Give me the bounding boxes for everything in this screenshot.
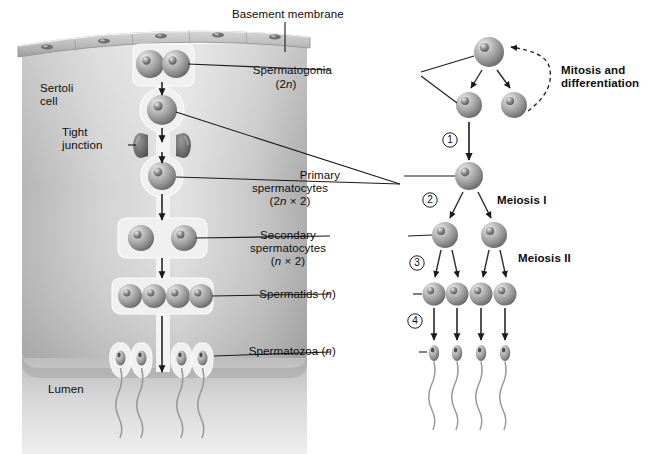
ploidy-suffix: ) (332, 288, 336, 300)
leader-spermatogonia-daughter (421, 76, 457, 103)
stage-label-secondary-spermatocytes-line1: Secondary (236, 229, 340, 242)
cell-spermatid-2 (446, 283, 469, 306)
step-number-1: 1 (443, 134, 457, 147)
cell-spermatogonium-daughter-right (501, 92, 527, 118)
step-number-2: 2 (423, 194, 437, 207)
lineage-spermatozoa (429, 345, 510, 430)
stage-label-spermatids: Spermatids (n) (236, 288, 336, 301)
stage-label-spermatids-text: Spermatids ( (259, 288, 325, 300)
stage-label-secondary-spermatocytes-line2: spermatocytes (236, 242, 340, 255)
sertoli-cell-label-line2: cell (40, 95, 58, 108)
step-4-arrows (434, 308, 505, 340)
ploidy-prefix: (2 (270, 195, 280, 207)
mitosis-label-line2: differentiation (561, 77, 639, 90)
step-number-3: 3 (410, 257, 424, 270)
ploidy-suffix: ) (293, 78, 297, 90)
stage-label-spermatozoa: Spermatozoa (n) (226, 345, 336, 358)
meiosis-1-arrows (450, 192, 491, 218)
stage-ploidy-secondary-spermatocytes: (n × 2) (236, 255, 340, 268)
meiosis-2-arrows (435, 250, 506, 277)
stage-ploidy-primary-spermatocytes: (2n × 2) (240, 195, 340, 208)
cell-spermatid-4 (494, 283, 517, 306)
tight-junction-label-line1: Tight (62, 126, 88, 139)
cell-spermatid-3 (470, 283, 493, 306)
meiosis-1-label: Meiosis I (497, 194, 546, 207)
figure-canvas: Basement membrane Sertoli cell Tight jun… (0, 0, 647, 454)
cell-secondary-spermatocyte-left (432, 222, 458, 248)
cell-spermatogonium-daughter-left (456, 92, 482, 118)
ploidy-suffix: ) (332, 345, 336, 357)
tight-junction-label-line2: junction (62, 139, 102, 152)
step-number-4: 4 (408, 315, 422, 328)
cell-secondary-spermatocyte-right (481, 222, 507, 248)
ploidy-prefix: (2 (276, 78, 286, 90)
stage-label-primary-spermatocytes-line1: Primary (240, 169, 340, 182)
mitosis-label-line1: Mitosis and (561, 64, 625, 77)
leader-secondary-right (408, 235, 432, 236)
stage-label-spermatogonia-text: Spermatogonia (253, 64, 332, 76)
cell-spermatid-1 (423, 283, 446, 306)
lumen-label: Lumen (48, 383, 84, 396)
sertoli-cell-label-line1: Sertoli (40, 82, 73, 95)
basement-membrane-label: Basement membrane (232, 8, 344, 21)
leader-spermatogonia-stem (421, 56, 474, 72)
meiosis-2-label: Meiosis II (518, 252, 571, 265)
stage-ploidy-spermatogonia: (2n) (240, 78, 332, 91)
cell-primary-spermatocyte (455, 162, 483, 190)
stage-label-primary-spermatocytes-line2: spermatocytes (240, 182, 340, 195)
stage-label-spermatozoa-text: Spermatozoa ( (249, 345, 326, 357)
cell-spermatogonium-stem (474, 37, 504, 67)
lineage-panel (408, 37, 551, 430)
ploidy-suffix: × 2) (281, 255, 305, 267)
stage-label-spermatogonia: Spermatogonia (240, 64, 332, 77)
ploidy-suffix: × 2) (287, 195, 311, 207)
mitosis-split-arrows (471, 70, 510, 88)
